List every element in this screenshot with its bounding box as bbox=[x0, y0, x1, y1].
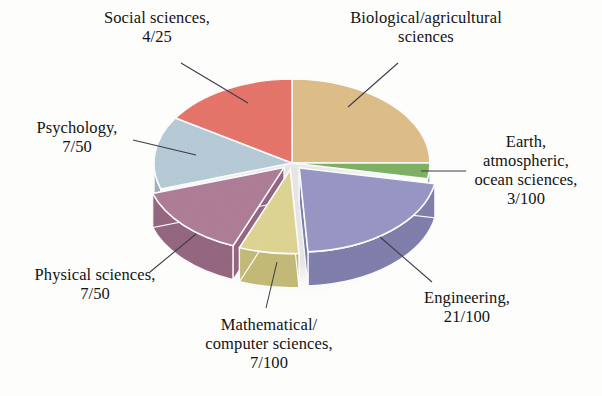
pie-slice-biological-agricultural-sciences[interactable] bbox=[292, 79, 430, 163]
label-biological-agricultural-sciences: Biological/agricultural sciences bbox=[306, 8, 546, 46]
pie-chart-figure: Social sciences, 4/25 Biological/agricul… bbox=[0, 0, 602, 396]
label-social-sciences: Social sciences, 4/25 bbox=[52, 8, 262, 46]
label-psychology: Psychology, 7/50 bbox=[2, 118, 152, 156]
label-mathematical-computer-sciences: Mathematical/ computer sciences, 7/100 bbox=[168, 315, 370, 372]
label-physical-sciences: Physical sciences, 7/50 bbox=[0, 265, 190, 303]
label-engineering: Engineering, 21/100 bbox=[378, 288, 556, 326]
label-earth-atmospheric-ocean-sciences: Earth, atmospheric, ocean sciences, 3/10… bbox=[452, 132, 600, 209]
